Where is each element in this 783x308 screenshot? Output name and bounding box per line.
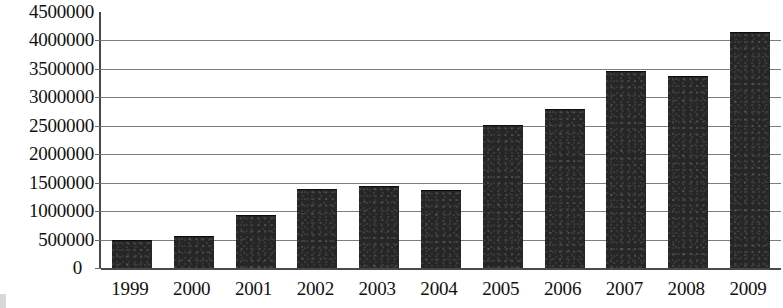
x-axis-tick-label: 2004 [420,278,457,299]
x-axis-tick-label: 2002 [297,278,334,299]
y-axis-tick-label: 2000000 [0,144,94,163]
x-slot: 2003 [346,276,408,306]
bar-1999[interactable] [112,240,152,268]
y-axis-tick-label: 3000000 [0,87,94,106]
bar-slot [410,12,472,268]
bars-layer [101,12,781,268]
axis-baseline [101,268,781,270]
y-axis-tick-label: 2500000 [0,116,94,135]
scan-edge-artifact [0,294,6,308]
x-axis-tick-label: 1999 [111,278,148,299]
bar-2005[interactable] [483,125,523,268]
y-axis-tick-label: 4000000 [0,30,94,49]
bar-slot [534,12,596,268]
bar-slot [596,12,658,268]
y-axis-tick-label: 1500000 [0,173,94,192]
x-axis-tick-label: 2000 [173,278,210,299]
x-slot: 2000 [161,276,223,306]
bar-slot [719,12,781,268]
x-slot: 2007 [594,276,656,306]
x-slot: 2008 [655,276,717,306]
bar-2006[interactable] [545,109,585,268]
x-slot: 2001 [223,276,285,306]
bar-2000[interactable] [174,236,214,268]
x-slot: 2002 [284,276,346,306]
x-axis-tick-label: 2001 [235,278,272,299]
x-axis-tick-label: 2008 [668,278,705,299]
bar-slot [348,12,410,268]
bar-slot [657,12,719,268]
y-axis-tick-label: 500000 [0,230,94,249]
plot-area [99,12,781,268]
x-axis-tick-label: 2009 [729,278,766,299]
y-axis: 0500000100000015000002000000250000030000… [0,0,94,280]
y-axis-tick-label: 3500000 [0,59,94,78]
y-axis-tick-label: 0 [0,258,94,277]
x-axis: 1999200020012002200320042005200620072008… [99,276,779,306]
x-axis-tick-label: 2005 [482,278,519,299]
bar-chart: 0500000100000015000002000000250000030000… [0,0,783,308]
y-axis-tick-label: 4500000 [0,2,94,21]
x-axis-tick-label: 2003 [359,278,396,299]
bar-slot [163,12,225,268]
x-axis-tick-label: 2006 [544,278,581,299]
bar-slot [101,12,163,268]
bar-2001[interactable] [236,215,276,268]
bar-2004[interactable] [421,190,461,268]
x-axis-tick-label: 2007 [606,278,643,299]
bar-slot [225,12,287,268]
bar-slot [472,12,534,268]
x-slot: 2009 [717,276,779,306]
bar-2009[interactable] [730,32,770,268]
x-slot: 2006 [532,276,594,306]
bar-2002[interactable] [297,189,337,268]
bar-2008[interactable] [668,76,708,268]
y-axis-tick [95,268,101,269]
y-axis-tick-label: 1000000 [0,201,94,220]
x-slot: 1999 [99,276,161,306]
bar-slot [286,12,348,268]
x-slot: 2005 [470,276,532,306]
bar-2003[interactable] [359,186,399,268]
x-slot: 2004 [408,276,470,306]
bar-2007[interactable] [606,71,646,268]
